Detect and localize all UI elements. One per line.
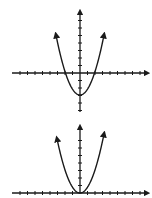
figure-canvas (0, 0, 152, 198)
graph-top (12, 12, 147, 112)
graph-bottom (12, 127, 147, 195)
